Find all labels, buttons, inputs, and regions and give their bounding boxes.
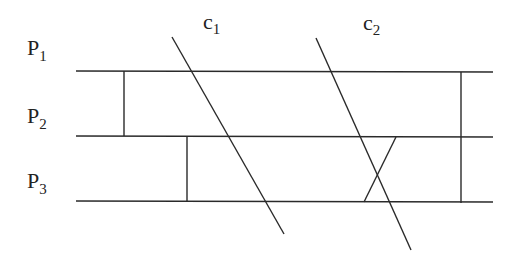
space-time-diagram: P1 P2 P3 c1 c2: [0, 0, 510, 260]
cut-c1: [172, 37, 284, 234]
message-p2-p3-diagonal: [364, 137, 396, 202]
process-label-p3: P3: [27, 168, 47, 197]
cut-c2: [316, 38, 411, 250]
timeline-p3: [76, 201, 493, 202]
process-label-p1: P1: [27, 35, 47, 64]
process-label-p2: P2: [27, 103, 47, 132]
cut-label-c2: c2: [363, 10, 380, 38]
cut-label-c1: c1: [203, 9, 220, 37]
timeline-p1: [76, 71, 493, 72]
timeline-p2: [76, 136, 493, 137]
